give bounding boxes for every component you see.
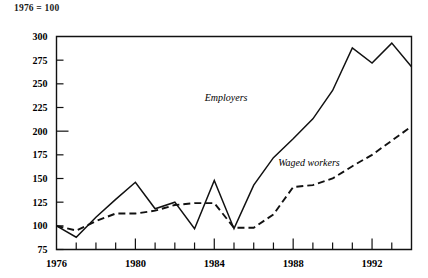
y-tick-label: 75 — [38, 244, 48, 255]
y-tick-label: 250 — [33, 78, 48, 89]
y-tick-label: 100 — [33, 220, 48, 231]
y-axis: 75100125150175200225250275300 — [33, 31, 69, 255]
chart-figure: 1976 = 100 75100125150175200225250275300… — [0, 0, 428, 278]
x-tick-label: 1992 — [362, 258, 383, 269]
line-chart-plot: 75100125150175200225250275300 1976198019… — [0, 0, 428, 278]
y-tick-label: 175 — [33, 149, 48, 160]
y-tick-label: 225 — [33, 102, 48, 113]
series-line-waged-workers — [57, 126, 412, 230]
y-tick-label: 125 — [33, 197, 48, 208]
x-tick-label: 1988 — [283, 258, 304, 269]
x-tick-label: 1980 — [125, 258, 146, 269]
y-tick-label: 150 — [33, 173, 48, 184]
series-line-employers — [57, 43, 412, 237]
x-tick-label: 1976 — [46, 258, 67, 269]
series-annotations: EmployersWaged workers — [204, 92, 340, 168]
x-axis: 19761980198419881992 — [46, 239, 392, 269]
y-tick-label: 275 — [33, 55, 48, 66]
y-tick-label: 200 — [33, 126, 48, 137]
series-label-waged-workers: Waged workers — [278, 157, 340, 168]
axis-frame — [57, 37, 412, 250]
series-label-employers: Employers — [204, 92, 248, 103]
y-tick-label: 300 — [33, 31, 48, 42]
plot-frame — [57, 37, 412, 250]
x-tick-label: 1984 — [204, 258, 226, 269]
series-lines — [57, 43, 412, 237]
